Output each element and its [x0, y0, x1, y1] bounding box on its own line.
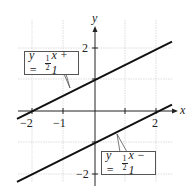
callout-lower-suffix: x − 1: [129, 148, 151, 178]
callout-lower-prefix: y =: [106, 148, 121, 178]
callout-lower: y = 12 x − 1: [101, 151, 156, 175]
fraction-num: 1: [123, 155, 127, 163]
callout-upper: y = 12 x + 1: [24, 51, 79, 75]
y-axis-label: y: [91, 11, 98, 25]
tick-x-2: 2: [152, 116, 158, 130]
callout-upper-prefix: y =: [29, 48, 44, 78]
fraction-den: 2: [46, 64, 50, 72]
fraction-den: 2: [123, 164, 127, 172]
tick-x-neg2: −2: [20, 116, 33, 130]
fraction-num: 1: [46, 55, 50, 63]
x-axis-label: x: [179, 103, 186, 117]
y-axis-arrow-icon: [93, 26, 98, 32]
graph: −2 −1 2 2 −2 x y: [0, 0, 192, 196]
tick-y-2: 2: [82, 41, 88, 55]
x-axis-arrow-icon: [172, 109, 178, 114]
callout-upper-suffix: x + 1: [52, 48, 74, 78]
fraction: 12: [122, 155, 128, 172]
fraction: 12: [45, 55, 51, 72]
tick-x-neg1: −1: [53, 116, 66, 130]
tick-y-neg2: −2: [76, 167, 89, 181]
